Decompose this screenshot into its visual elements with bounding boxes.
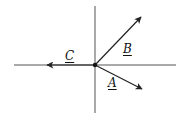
vector-c-label: C [65,50,74,62]
vector-b-label: B [123,43,132,55]
vector-b-arrow [95,17,141,65]
vector-a-arrow [95,65,142,89]
vector-diagram [0,0,186,120]
origin-point [93,63,97,67]
vector-a-label: A [108,77,117,89]
